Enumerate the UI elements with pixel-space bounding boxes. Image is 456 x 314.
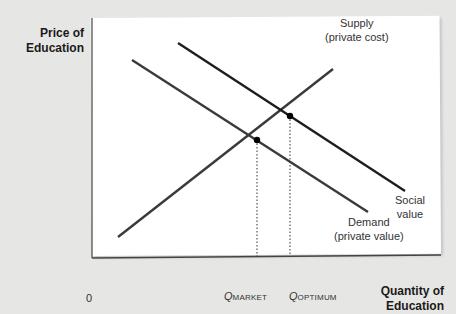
q-optimum-symbol: Q — [289, 290, 298, 302]
x-axis-label-line2: Education — [381, 299, 444, 314]
market-equilibrium-point — [254, 137, 260, 143]
supply-curve — [118, 69, 333, 237]
q-optimum-subscript: OPTIMUM — [298, 293, 337, 302]
y-axis-label-line2: Education — [26, 41, 84, 56]
demand-label: Demand (private value) — [334, 215, 404, 243]
supply-label: Supply (private cost) — [325, 16, 389, 44]
x-axis — [92, 255, 441, 258]
q-market-label: QMARKET — [224, 290, 267, 302]
y-axis-label-line1: Price of — [26, 26, 84, 41]
x-axis-label-line1: Quantity of — [381, 284, 444, 299]
q-market-subscript: MARKET — [233, 293, 268, 302]
origin-label: 0 — [86, 292, 92, 304]
optimum-equilibrium-point — [287, 113, 293, 119]
demand-curve — [132, 60, 368, 212]
q-optimum-label: QOPTIMUM — [289, 290, 337, 302]
demand-label-line1: Demand — [334, 215, 404, 229]
x-axis-label: Quantity of Education — [381, 284, 444, 314]
social-value-label-line1: Social — [395, 193, 425, 207]
demand-label-line2: (private value) — [334, 229, 404, 243]
supply-label-line1: Supply — [325, 16, 389, 30]
q-market-symbol: Q — [224, 290, 233, 302]
supply-label-line2: (private cost) — [325, 30, 389, 44]
y-axis-label: Price of Education — [26, 26, 84, 56]
